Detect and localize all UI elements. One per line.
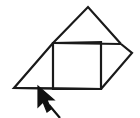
- top-edge-line: [53, 43, 121, 44]
- bottom-base-line: [14, 88, 102, 89]
- diagram-background: [0, 0, 140, 118]
- geometric-net-diagram: [0, 0, 140, 118]
- figure-container: [0, 0, 140, 118]
